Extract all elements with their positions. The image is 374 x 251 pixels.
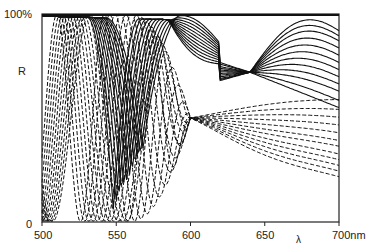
x-tick-500: 500 (34, 230, 52, 241)
solid-curve (42, 16, 339, 159)
x-axis-label: λ (296, 235, 301, 245)
x-tick-700: 700nm (332, 230, 366, 241)
solid-curve (42, 16, 339, 182)
x-tick-650: 650 (256, 230, 274, 241)
y-tick-0: 0 (26, 219, 32, 230)
x-tick-marks (42, 222, 339, 226)
x-tick-550: 550 (108, 230, 126, 241)
y-axis-label: R (18, 66, 26, 77)
x-tick-600: 600 (182, 230, 200, 241)
curve-group (42, 15, 339, 221)
y-tick-100: 100% (4, 9, 32, 20)
reflectance-chart (0, 0, 374, 251)
